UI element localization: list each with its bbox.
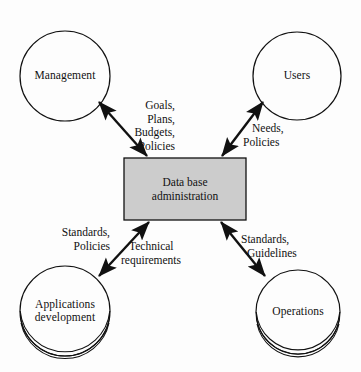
edge-label-applications-development-line2: Policies xyxy=(44,240,110,254)
edge-label-management-line2: Plans, xyxy=(103,113,175,127)
edge-label-management-line3: Budgets, xyxy=(103,126,175,140)
edge-label-management: Goals, Plans, Budgets, Policies xyxy=(103,99,175,153)
edge-label-operations: Standards, Guidelines xyxy=(241,233,317,260)
edge-label-users-line2: Policies xyxy=(243,136,307,150)
node-label-operations-line1: Operations xyxy=(248,305,348,318)
node-label-applications-development: Applications development xyxy=(8,298,122,324)
node-label-users: Users xyxy=(247,69,347,82)
edge-label-management-line1: Goals, xyxy=(103,99,175,113)
node-label-management: Management xyxy=(10,69,120,82)
edge-label-users: Needs, Policies xyxy=(243,122,307,149)
edge-label-operations-line2: Guidelines xyxy=(241,247,317,261)
edge-label-users-line1: Needs, xyxy=(243,122,307,136)
node-label-applications-development-line1: Applications xyxy=(8,298,122,311)
edge-label-technical-requirements: Technical requirements xyxy=(121,240,216,267)
node-label-operations: Operations xyxy=(248,305,348,318)
diagram-canvas: Management Users Applications developmen… xyxy=(0,0,361,372)
edge-label-management-line4: Policies xyxy=(103,140,175,154)
node-label-users-line1: Users xyxy=(247,69,347,82)
node-label-applications-development-line2: development xyxy=(8,311,122,324)
edge-label-technical-requirements-line1: Technical xyxy=(121,240,216,254)
edge-label-applications-development-line1: Standards, xyxy=(44,226,110,240)
edge-label-operations-line1: Standards, xyxy=(241,233,317,247)
node-label-management-line1: Management xyxy=(10,69,120,82)
center-box-label-line2: administration xyxy=(124,189,246,203)
edge-label-technical-requirements-line2: requirements xyxy=(121,254,216,268)
edge-label-applications-development: Standards, Policies xyxy=(44,226,110,253)
center-box-label-line1: Data base xyxy=(124,175,246,189)
center-box-label: Data base administration xyxy=(124,175,246,203)
